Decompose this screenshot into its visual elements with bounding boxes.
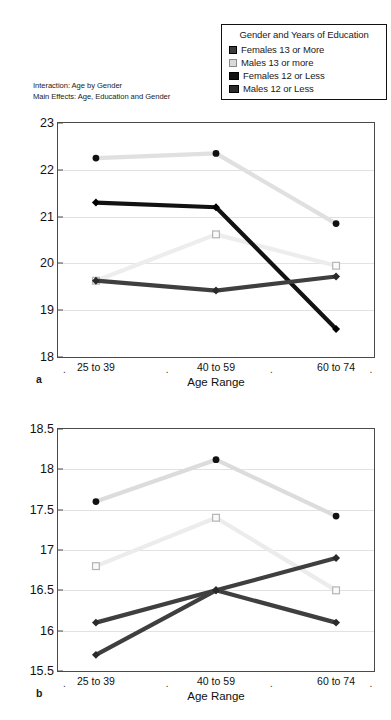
series-females-13-or-more	[93, 150, 340, 227]
legend-marker-icon	[229, 59, 237, 67]
chart-legend: Gender and Years of Education Females 13…	[221, 24, 387, 100]
legend-title: Gender and Years of Education	[226, 29, 382, 41]
y-axis-tick-label: 18	[40, 350, 57, 364]
x-axis-tick-label: 40 to 59	[197, 675, 235, 687]
series-line	[96, 234, 336, 280]
data-point-marker	[332, 273, 340, 281]
y-axis-tick-label: 15.5	[30, 664, 57, 678]
legend-item-label: Females 13 or More	[241, 43, 324, 56]
notes-interaction-line: Interaction: Age by Gender	[33, 81, 170, 92]
series-males-13-or-more	[93, 514, 340, 593]
plot-area-b: 15.51616.51717.51818.525 to 3940 to 5960…	[57, 428, 375, 672]
legend-item-label: Females 12 or Less	[243, 69, 325, 82]
data-point-marker	[213, 231, 220, 238]
data-point-marker	[333, 587, 340, 594]
y-axis-tick-label: 17.5	[30, 503, 57, 517]
panel-tag-b: b	[36, 687, 42, 699]
x-axis-tick-label: 60 to 74	[317, 361, 355, 373]
plot-area-a: 18192021222325 to 3940 to 5960 to 74....	[57, 122, 375, 358]
x-axis-minor-tick: .	[166, 364, 169, 375]
data-point-marker	[213, 150, 220, 157]
series-layer	[58, 429, 374, 671]
legend-item-females-12-or-less: Females 12 or Less	[229, 69, 382, 82]
x-axis-minor-tick: .	[369, 364, 372, 375]
statistical-notes: Interaction: Age by Gender Main Effects:…	[33, 81, 170, 102]
data-point-marker	[93, 563, 100, 570]
x-axis-minor-tick: .	[63, 678, 66, 689]
legend-item-males-13-or-more: Males 13 or more	[229, 56, 382, 69]
legend-marker-icon	[229, 72, 239, 80]
data-point-marker	[93, 155, 100, 162]
x-axis-minor-tick: .	[270, 364, 273, 375]
series-line	[96, 558, 336, 655]
data-point-marker	[212, 287, 220, 295]
x-axis-tick-label: 60 to 74	[317, 675, 355, 687]
series-line	[96, 518, 336, 591]
series-males-13-or-more	[93, 231, 340, 284]
y-axis-tick-label: 21	[40, 210, 57, 224]
panel-tag-a: a	[36, 373, 42, 385]
x-axis-label-a: Age Range	[57, 376, 375, 388]
y-axis-tick-label: 17	[40, 543, 57, 557]
x-axis-minor-tick: .	[270, 678, 273, 689]
series-line	[96, 460, 336, 516]
x-axis-tick-label: 25 to 39	[77, 675, 115, 687]
series-males-12-or-less	[92, 273, 340, 295]
y-axis-tick-label: 16.5	[30, 583, 57, 597]
legend-item-label: Males 13 or more	[241, 56, 313, 69]
series-layer	[58, 123, 374, 357]
legend-item-label: Males 12 or Less	[243, 82, 314, 95]
y-axis-tick-label: 20	[40, 256, 57, 270]
data-point-marker	[333, 220, 340, 227]
data-point-marker	[333, 513, 340, 520]
y-axis-tick-label: 23	[40, 116, 57, 130]
panel-a: 18192021222325 to 3940 to 5960 to 74....…	[0, 108, 391, 398]
notes-main-effects-line: Main Effects: Age, Education and Gender	[33, 92, 170, 103]
data-point-marker	[213, 514, 220, 521]
data-point-marker	[333, 262, 340, 269]
legend-marker-icon	[229, 46, 237, 54]
x-axis-tick-label: 25 to 39	[77, 361, 115, 373]
y-axis-tick-label: 16	[40, 624, 57, 638]
panel-b: 15.51616.51717.51818.525 to 3940 to 5960…	[0, 400, 391, 720]
x-axis-tick-label: 40 to 59	[197, 361, 235, 373]
y-axis-tick-label: 18.5	[30, 422, 57, 436]
y-axis-tick-label: 19	[40, 303, 57, 317]
legend-item-females-13-or-more: Females 13 or More	[229, 43, 382, 56]
x-axis-minor-tick: .	[369, 678, 372, 689]
y-axis-tick-label: 18	[40, 462, 57, 476]
data-point-marker	[92, 199, 100, 207]
data-point-marker	[93, 498, 100, 505]
legend-item-males-12-or-less: Males 12 or Less	[229, 82, 382, 95]
figure-two-panel-line-charts: Gender and Years of Education Females 13…	[0, 0, 391, 720]
series-females-13-or-more	[93, 456, 340, 519]
x-axis-minor-tick: .	[166, 678, 169, 689]
x-axis-label-b: Age Range	[57, 690, 375, 702]
y-axis-tick-label: 22	[40, 163, 57, 177]
series-line	[96, 153, 336, 223]
x-axis-minor-tick: .	[63, 364, 66, 375]
data-point-marker	[213, 456, 220, 463]
legend-marker-icon	[229, 85, 239, 93]
series-line	[96, 590, 336, 622]
